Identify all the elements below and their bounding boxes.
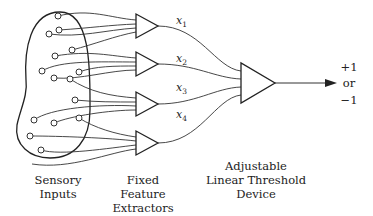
label-x3: x3	[176, 81, 187, 96]
extractor-2	[136, 52, 158, 76]
label-x2: x2	[176, 52, 187, 67]
extractor-4	[136, 131, 158, 155]
output-arrowhead-icon	[325, 79, 337, 87]
caption-features-2: Feature	[120, 187, 166, 201]
perceptron-diagram: x1 x2 x3 x4 +1 or −1 Sensory Inputs Fixe…	[0, 0, 373, 216]
sensory-nodes	[27, 13, 82, 153]
label-x4: x4	[176, 108, 187, 123]
input-wires	[30, 13, 136, 165]
extractor-3	[136, 92, 158, 116]
threshold-device	[241, 63, 275, 103]
caption-sensory-1: Sensory	[35, 173, 82, 187]
feature-extractors	[136, 14, 158, 155]
output-minus-one: −1	[341, 93, 358, 107]
caption-sensory-2: Inputs	[39, 187, 76, 201]
caption-features-1: Fixed	[127, 173, 160, 187]
caption-threshold-1: Adjustable	[224, 159, 287, 173]
caption-threshold-2: Linear Threshold	[206, 173, 307, 187]
output-plus-one: +1	[341, 60, 358, 74]
output-or: or	[343, 76, 356, 90]
caption-threshold-3: Device	[236, 187, 276, 201]
extractor-1	[136, 14, 158, 38]
caption-features-3: Extractors	[112, 201, 173, 215]
label-x1: x1	[176, 14, 187, 29]
feature-wires	[158, 26, 241, 143]
